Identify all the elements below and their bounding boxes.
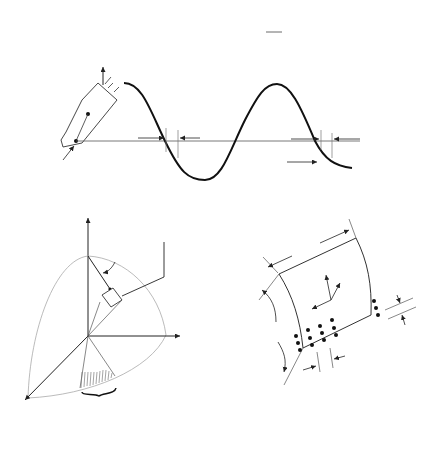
coordinate-panel <box>0 0 180 400</box>
main-equation <box>0 0 282 32</box>
image-patch-panel <box>259 219 416 385</box>
signal-wave <box>124 83 352 180</box>
sar-geometry-diagram <box>0 0 430 461</box>
pixel-dots <box>294 299 380 352</box>
sensor-icon <box>61 77 119 147</box>
sensor-wave-panel <box>0 0 360 180</box>
brace-icon <box>82 388 116 396</box>
sensor-box-icon <box>102 288 122 307</box>
